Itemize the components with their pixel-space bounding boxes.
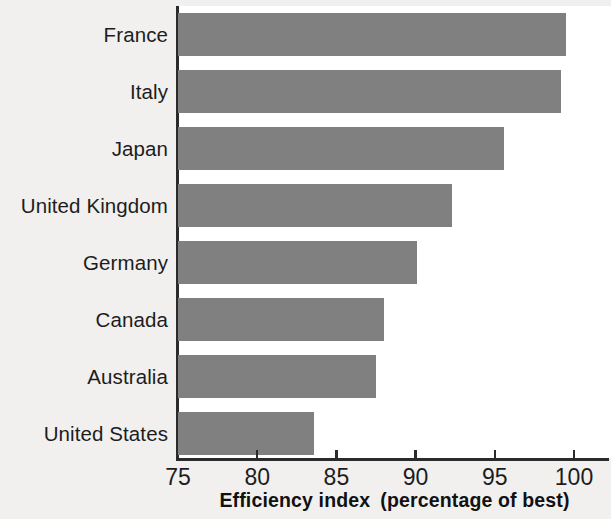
- bar-france: [178, 13, 566, 56]
- x-tick-label-95: 95: [482, 464, 508, 491]
- x-tick-label-85: 85: [324, 464, 350, 491]
- bar-row: Australia: [0, 348, 611, 405]
- category-label-united-kingdom: United Kingdom: [21, 184, 168, 227]
- x-axis-title-main: Efficiency index: [219, 489, 370, 511]
- x-tick-mark-90: [414, 450, 417, 461]
- x-tick-mark-80: [256, 450, 259, 461]
- bar-row: France: [0, 6, 611, 63]
- bar-australia: [178, 355, 376, 398]
- category-label-france: France: [104, 13, 168, 56]
- bar-germany: [178, 241, 417, 284]
- x-tick-mark-95: [494, 450, 497, 461]
- x-tick-label-100: 100: [555, 464, 593, 491]
- bar-row: Canada: [0, 291, 611, 348]
- category-label-italy: Italy: [130, 70, 168, 113]
- bar-canada: [178, 298, 384, 341]
- x-axis-title-paren: (percentage of best): [380, 489, 569, 511]
- bar-united-kingdom: [178, 184, 452, 227]
- bar-row: Japan: [0, 120, 611, 177]
- category-label-australia: Australia: [87, 355, 168, 398]
- bar-row: United States: [0, 405, 611, 462]
- x-tick-label-75: 75: [165, 464, 191, 491]
- x-tick-label-80: 80: [244, 464, 270, 491]
- bar-italy: [178, 70, 561, 113]
- bar-row: Germany: [0, 234, 611, 291]
- category-label-germany: Germany: [83, 241, 168, 284]
- x-tick-label-90: 90: [403, 464, 429, 491]
- category-label-japan: Japan: [112, 127, 168, 170]
- bar-row: United Kingdom: [0, 177, 611, 234]
- x-tick-mark-85: [335, 450, 338, 461]
- bar-japan: [178, 127, 504, 170]
- x-axis-title: Efficiency index(percentage of best): [0, 489, 611, 512]
- bar-united-states: [178, 412, 314, 455]
- category-label-united-states: United States: [44, 412, 168, 455]
- category-label-canada: Canada: [96, 298, 168, 341]
- bar-row: Italy: [0, 63, 611, 120]
- bar-chart: FranceItalyJapanUnited KingdomGermanyCan…: [0, 0, 611, 519]
- x-tick-mark-100: [573, 450, 576, 461]
